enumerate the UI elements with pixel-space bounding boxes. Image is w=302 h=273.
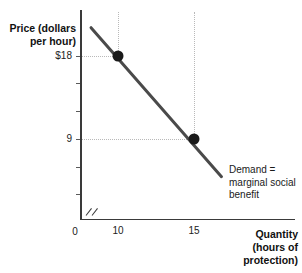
data-point-q15-p9: [189, 134, 200, 145]
x-axis-title-line2: (hours of: [253, 241, 299, 253]
y-tick-label-18: $18: [26, 51, 72, 61]
x-axis-line: [80, 219, 295, 221]
y-axis-line: [80, 10, 82, 220]
axis-break-mark: [92, 208, 98, 216]
demand-curve-chart: Price (dollars per hour) Quantity (hours…: [0, 0, 302, 273]
gridline-vertical-q15: [194, 12, 195, 140]
y-axis-tick: [76, 194, 80, 195]
x-tick-label-0: 0: [60, 226, 90, 237]
y-axis-tick: [76, 111, 80, 112]
x-axis-title-line1: Quantity: [255, 228, 298, 240]
annotation-line2: marginal social: [229, 177, 296, 188]
y-axis-tick: [76, 139, 80, 140]
annotation-line1: Demand =: [229, 164, 275, 175]
data-point-q10-p18: [113, 51, 124, 62]
annotation-line3: benefit: [229, 189, 259, 200]
y-axis-title: Price (dollars per hour): [4, 22, 76, 48]
demand-curve-line: [89, 26, 223, 179]
y-tick-label-9: 9: [26, 134, 72, 144]
y-axis-tick: [76, 56, 80, 57]
y-axis-tick: [76, 83, 80, 84]
gridline-horizontal-p9: [81, 139, 195, 140]
demand-curve-annotation: Demand = marginal social benefit: [229, 164, 301, 202]
y-axis-title-line2: per hour): [30, 35, 76, 47]
x-axis-title-line3: protection): [243, 254, 298, 266]
x-tick-label-15: 15: [174, 226, 214, 236]
y-axis-tick: [76, 167, 80, 168]
x-tick-label-10: 10: [98, 226, 138, 236]
y-axis-title-line1: Price (dollars: [9, 22, 76, 34]
